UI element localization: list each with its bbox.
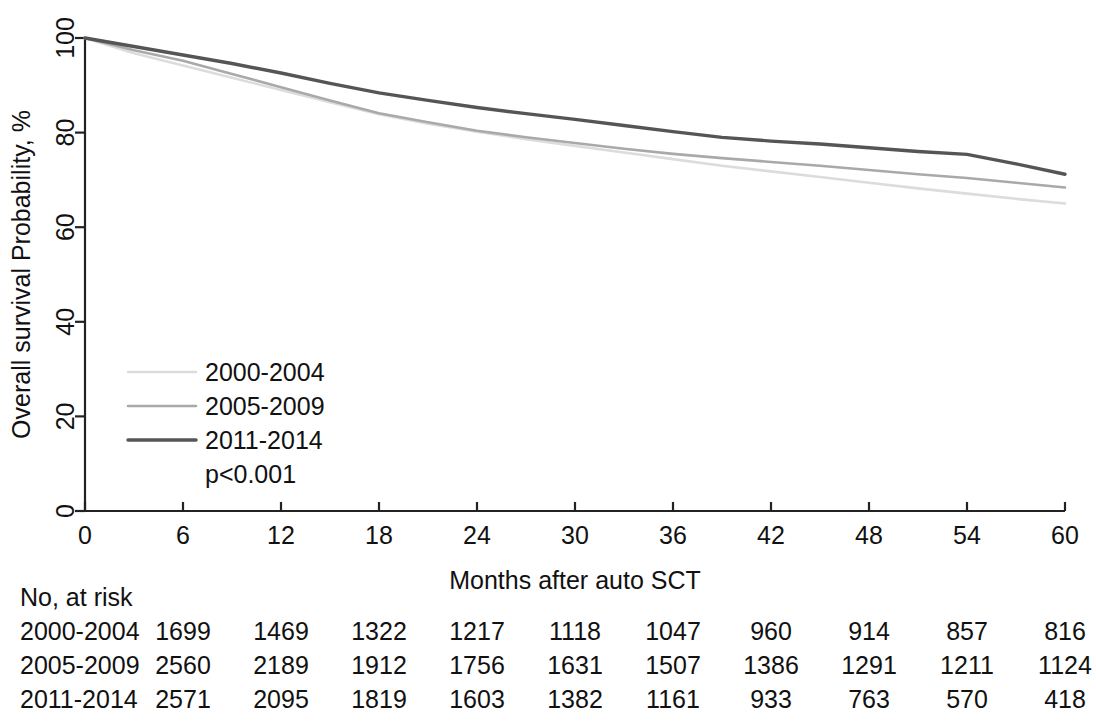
risk-count-cell: 1047: [630, 617, 716, 646]
risk-count-cell: 2189: [238, 651, 324, 680]
risk-count-cell: 933: [728, 685, 814, 714]
risk-count-cell: 418: [1022, 685, 1096, 714]
risk-count-cell: 816: [1022, 617, 1096, 646]
y-tick-label: 60: [51, 213, 79, 241]
risk-count-cell: 1819: [336, 685, 422, 714]
legend-label: 2011-2014: [205, 426, 323, 454]
x-tick-label: 18: [365, 521, 393, 549]
legend-label: 2005-2009: [205, 392, 325, 420]
risk-row-label: 2005-2009: [20, 651, 140, 680]
x-tick-label: 24: [463, 521, 491, 549]
y-tick-label: 100: [51, 17, 79, 59]
risk-count-cell: 1912: [336, 651, 422, 680]
risk-count-cell: 2095: [238, 685, 324, 714]
x-axis-title: Months after auto SCT: [449, 566, 701, 594]
y-tick-label: 20: [51, 402, 79, 430]
risk-count-cell: 960: [728, 617, 814, 646]
risk-count-cell: 857: [924, 617, 1010, 646]
risk-table-header: No, at risk: [20, 583, 133, 612]
legend-layer: 2000-20042005-20092011-2014p<0.001: [128, 358, 325, 488]
x-tick-label: 0: [78, 521, 92, 549]
risk-count-cell: 1322: [336, 617, 422, 646]
risk-count-cell: 1603: [434, 685, 520, 714]
risk-count-cell: 1118: [532, 617, 618, 646]
survival-curve: [85, 38, 1065, 187]
x-tick-label: 6: [176, 521, 190, 549]
risk-count-cell: 1507: [630, 651, 716, 680]
x-tick-label: 30: [561, 521, 589, 549]
y-axis-title: Overall survival Probability, %: [7, 110, 35, 439]
risk-count-cell: 763: [826, 685, 912, 714]
x-tick-label: 48: [855, 521, 883, 549]
x-tick-label: 12: [267, 521, 295, 549]
p-value-annotation: p<0.001: [205, 460, 296, 488]
risk-count-cell: 1756: [434, 651, 520, 680]
risk-count-cell: 1161: [630, 685, 716, 714]
risk-count-cell: 1124: [1022, 651, 1096, 680]
risk-count-cell: 570: [924, 685, 1010, 714]
risk-count-cell: 1291: [826, 651, 912, 680]
risk-table-row: 2011-20142571209518191603138211619337635…: [0, 685, 1086, 719]
x-tick-label: 42: [757, 521, 785, 549]
y-tick-label: 0: [51, 504, 79, 518]
x-tick-label: 60: [1051, 521, 1079, 549]
curve-layer: [85, 38, 1065, 204]
risk-table-row: 2000-20041699146913221217111810479609148…: [0, 617, 1086, 651]
x-tick-label: 36: [659, 521, 687, 549]
risk-count-cell: 1631: [532, 651, 618, 680]
risk-count-cell: 1217: [434, 617, 520, 646]
risk-count-cell: 1386: [728, 651, 814, 680]
risk-row-label: 2011-2014: [20, 685, 138, 714]
risk-count-cell: 1699: [140, 617, 226, 646]
risk-row-label: 2000-2004: [20, 617, 140, 646]
risk-count-cell: 1211: [924, 651, 1010, 680]
risk-count-cell: 914: [826, 617, 912, 646]
label-layer: Months after auto SCTOverall survival Pr…: [7, 110, 701, 594]
survival-curve: [85, 38, 1065, 174]
legend-label: 2000-2004: [205, 358, 325, 386]
kaplan-meier-plot: 06121824303642485460020406080100 2000-20…: [0, 0, 1086, 600]
y-tick-label: 80: [51, 119, 79, 147]
x-tick-label: 54: [953, 521, 981, 549]
risk-count-cell: 1469: [238, 617, 324, 646]
risk-count-cell: 2571: [140, 685, 226, 714]
risk-table-row: 2005-20092560218919121756163115071386129…: [0, 651, 1086, 685]
risk-count-cell: 2560: [140, 651, 226, 680]
y-tick-label: 40: [51, 308, 79, 336]
risk-count-cell: 1382: [532, 685, 618, 714]
